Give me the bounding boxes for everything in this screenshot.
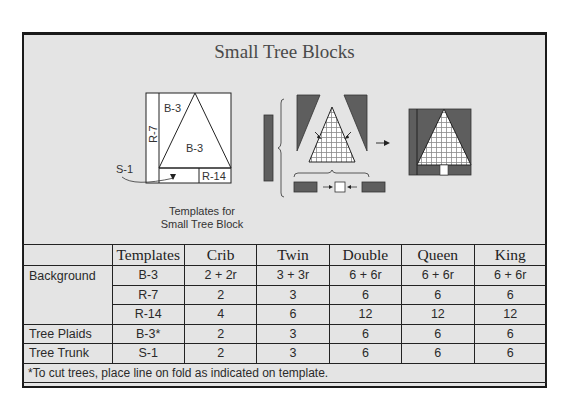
- header-double: Double: [329, 245, 401, 266]
- king-cell: 6 + 6r: [474, 266, 546, 286]
- row-label: Background: [23, 266, 113, 286]
- header-crib: Crib: [184, 245, 256, 266]
- table-row: R-7 2 3 6 6 6: [23, 285, 547, 305]
- header-twin: Twin: [257, 245, 329, 266]
- cutting-table: Templates Crib Twin Double Queen King Ba…: [22, 244, 547, 383]
- king-cell: 12: [474, 305, 546, 325]
- queen-cell: 6: [402, 344, 474, 364]
- small-tree-blocks-panel: Small Tree Blocks B-3 B-3 R-7 R-14 S-1: [22, 32, 547, 388]
- king-cell: 6: [474, 324, 546, 344]
- double-cell: 6: [329, 324, 401, 344]
- queen-cell: 6: [402, 285, 474, 305]
- diagram-caption: Templates for Small Tree Block: [132, 205, 272, 231]
- label-s1: S-1: [116, 163, 133, 175]
- arrow-right-icon: [376, 140, 390, 146]
- caption-line-2: Small Tree Block: [132, 218, 272, 231]
- crib-cell: 2: [184, 324, 256, 344]
- twin-cell: 3 + 3r: [257, 266, 329, 286]
- double-cell: 6: [329, 344, 401, 364]
- label-r7: R-7: [147, 125, 159, 143]
- table-row: Background B-3 2 + 2r 3 + 3r 6 + 6r 6 + …: [23, 266, 547, 286]
- header-queen: Queen: [402, 245, 474, 266]
- finished-block: [409, 109, 471, 175]
- queen-cell: 6: [402, 324, 474, 344]
- template-cell: B-3*: [112, 324, 184, 344]
- template-cell: S-1: [112, 344, 184, 364]
- block-diagram: B-3 B-3 R-7 R-14 S-1: [24, 35, 545, 245]
- king-cell: 6: [474, 344, 546, 364]
- template-cell: B-3: [112, 266, 184, 286]
- crib-cell: 2: [184, 344, 256, 364]
- label-b3-center: B-3: [186, 142, 203, 154]
- footnote-row: *To cut trees, place line on fold as ind…: [23, 363, 547, 383]
- table-row: Tree Plaids B-3* 2 3 6 6 6: [23, 324, 547, 344]
- label-r14: R-14: [202, 170, 226, 182]
- twin-cell: 3: [257, 324, 329, 344]
- queen-cell: 12: [402, 305, 474, 325]
- king-cell: 6: [474, 285, 546, 305]
- crib-cell: 2 + 2r: [184, 266, 256, 286]
- double-cell: 12: [329, 305, 401, 325]
- header-king: King: [474, 245, 546, 266]
- row-label: Tree Trunk: [23, 344, 113, 364]
- table-row: R-14 4 6 12 12 12: [23, 305, 547, 325]
- twin-cell: 6: [257, 305, 329, 325]
- caption-line-1: Templates for: [132, 205, 272, 218]
- row-label: Tree Plaids: [23, 324, 113, 344]
- template-diagram: B-3 B-3 R-7 R-14 S-1: [116, 93, 231, 183]
- table-row: Tree Trunk S-1 2 3 6 6 6: [23, 344, 547, 364]
- table-header-row: Templates Crib Twin Double Queen King: [23, 245, 547, 266]
- header-templates: Templates: [112, 245, 184, 266]
- template-cell: R-14: [112, 305, 184, 325]
- crib-cell: 4: [184, 305, 256, 325]
- double-cell: 6: [329, 285, 401, 305]
- twin-cell: 3: [257, 344, 329, 364]
- queen-cell: 6 + 6r: [402, 266, 474, 286]
- template-cell: R-7: [112, 285, 184, 305]
- row-label: [23, 305, 113, 325]
- header-blank: [23, 245, 113, 266]
- footnote: *To cut trees, place line on fold as ind…: [23, 363, 547, 383]
- row-label: [23, 285, 113, 305]
- crib-cell: 2: [184, 285, 256, 305]
- twin-cell: 3: [257, 285, 329, 305]
- double-cell: 6 + 6r: [329, 266, 401, 286]
- label-b3-top: B-3: [164, 102, 181, 114]
- exploded-pieces: [264, 95, 385, 197]
